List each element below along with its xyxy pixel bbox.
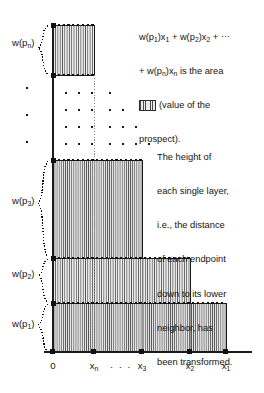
explanation-line-7: been transformed. [157,357,261,368]
formula-line-2: + w(pn)xn is the area [139,66,261,77]
explanation-line-3: i.e., the distance [157,220,261,231]
brace-wp2 [38,259,48,302]
axis-ellipsis: · · · [110,361,132,372]
weight-label-wp2-sub: 2 [27,273,31,280]
weight-ellipsis-dots [26,87,29,144]
weight-label-wp1-sub: 1 [27,323,31,330]
axis-tick-label-0: 0 [45,360,61,371]
weight-label-wp2-text: w(p [12,268,27,279]
axis-tick-label-x1: x1 [218,360,234,371]
explanation-text: The height of each single layer, i.e., t… [157,129,261,391]
weight-label-wp1-text: w(p [12,318,27,329]
prospect-value-figure: w(p1)x1 + w(p2)x2 + ⋯ + w(pn)xn is the a… [0,0,264,393]
brace-wp3 [38,161,48,257]
weight-label-wp3-close: ) [31,195,34,206]
explanation-line-2: each single layer, [157,186,261,197]
layer-rect-n [53,25,94,75]
layer-ellipsis-dot-matrix [65,92,151,146]
weight-label-wp1: w(p1) [12,318,34,329]
axis-tick-label-0-text: 0 [50,360,55,371]
weight-label-wp3: w(p3) [12,195,34,206]
axis-tick-label-xn-sub: n [95,365,99,372]
layer-rect-3 [53,160,142,258]
formula-line-3-text: (value of the [159,100,210,111]
weight-label-wpn-close: ) [31,37,34,48]
brace-wpn [38,26,48,74]
weight-label-wp1-close: ) [31,318,34,329]
weight-label-wpn: w(pn) [12,37,34,48]
explanation-line-6: neighbor, has [157,323,261,334]
axis-tick-label-x1-sub: 1 [227,365,231,372]
weight-label-wp2-close: ) [31,268,34,279]
axis-tick-label-x3: x3 [134,360,150,371]
explanation-line-1: The height of [157,152,261,163]
axis-tick-label-xn-text: x [90,360,95,371]
weight-label-wp3-sub: 3 [27,200,31,207]
weight-braces [38,26,48,351]
axis-tick-label-x2: x2 [182,360,198,371]
formula-line-3: (value of the [139,100,261,111]
weight-label-wpn-sub: n [27,42,31,49]
axis-tick-label-x1-text: x [222,360,227,371]
weight-label-wp2: w(p2) [12,268,34,279]
explanation-line-5: down to its lower [157,289,261,300]
formula-line-1: w(p1)x1 + w(p2)x2 + ⋯ [139,32,261,43]
axis-tick-label-x3-text: x [138,360,143,371]
weight-label-wp3-text: w(p [12,195,27,206]
axis-tick-label-x2-sub: 2 [191,365,195,372]
area-swatch-icon [139,100,156,111]
brace-wp1 [38,304,48,351]
axis-tick-label-xn: xn [86,360,102,371]
explanation-line-4: of each endpoint [157,254,261,265]
axis-tick-label-x2-text: x [186,360,191,371]
weight-label-wpn-text: w(p [12,37,27,48]
axis-tick-label-x3-sub: 3 [143,365,147,372]
